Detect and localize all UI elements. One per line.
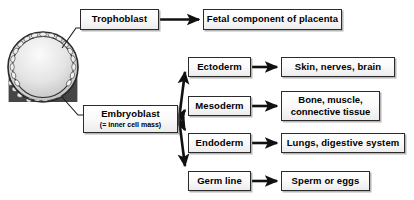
- cell-lineage-diagram: Trophoblast Fetal component of placenta …: [0, 0, 414, 200]
- node-germline-label: Germ line: [197, 176, 242, 187]
- node-bone-muscle-connective-tissue: Bone, muscle, connective tissue: [281, 91, 380, 121]
- node-bone-label-line1: Bone, muscle,: [298, 95, 362, 106]
- node-placenta-label: Fetal component of placenta: [207, 14, 339, 25]
- node-germ-line: Germ line: [188, 171, 251, 191]
- node-embryoblast: Embryoblast (= inner cell mass): [83, 105, 178, 133]
- node-trophoblast: Trophoblast: [80, 9, 159, 30]
- node-bone-label-line2: connective tissue: [291, 107, 371, 118]
- node-mesoderm: Mesoderm: [188, 96, 251, 116]
- node-sperm-or-eggs: Sperm or eggs: [281, 171, 370, 191]
- node-endoderm: Endoderm: [188, 133, 251, 153]
- node-embryoblast-sublabel: (= inner cell mass): [100, 121, 161, 129]
- node-ectoderm-label: Ectoderm: [197, 62, 242, 73]
- node-lungs-label: Lungs, digestive system: [287, 138, 400, 149]
- node-mesoderm-label: Mesoderm: [195, 101, 243, 112]
- node-embryoblast-label: Embryoblast: [101, 109, 160, 120]
- node-endoderm-label: Endoderm: [196, 138, 244, 149]
- node-sperm-label: Sperm or eggs: [292, 176, 360, 187]
- node-skin-nerves-brain: Skin, nerves, brain: [281, 57, 395, 77]
- node-skin-label: Skin, nerves, brain: [295, 62, 381, 73]
- node-lungs-digestive-system: Lungs, digestive system: [281, 133, 405, 153]
- node-ectoderm: Ectoderm: [188, 57, 251, 77]
- node-trophoblast-label: Trophoblast: [92, 14, 147, 25]
- node-fetal-component-of-placenta: Fetal component of placenta: [203, 9, 342, 30]
- blastocyst-illustration: [6, 32, 80, 104]
